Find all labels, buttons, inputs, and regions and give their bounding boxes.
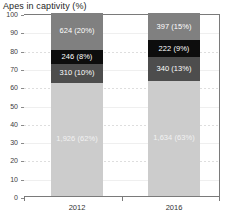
x-tick-mark	[24, 197, 25, 201]
bar-segment-segment-2-2016[interactable]: 340 (13%)	[148, 57, 200, 81]
plot-area: 1,926 (62%)310 (10%)246 (8%)624 (20%)1,6…	[24, 14, 220, 197]
bar-segment-label: 222 (9%)	[159, 45, 190, 53]
y-tick-mark	[21, 180, 24, 181]
bar-segment-segment-2-2012[interactable]: 310 (10%)	[51, 64, 103, 82]
bar-segment-label: 624 (20%)	[59, 27, 94, 35]
bar-segment-label: 397 (15%)	[156, 23, 191, 31]
y-tick-label: 10	[0, 175, 18, 182]
bar-segment-label: 310 (10%)	[59, 69, 94, 77]
y-tick-mark	[21, 33, 24, 34]
x-axis: 20122016	[24, 197, 220, 215]
bar-segment-segment-3-2012[interactable]: 246 (8%)	[51, 50, 103, 65]
bar-segment-label: 1,634 (63%)	[153, 134, 194, 142]
chart-container: Apes in captivity (%) 1,926 (62%)310 (10…	[0, 0, 227, 218]
y-tick-label: 50	[0, 102, 18, 109]
y-tick-label: 70	[0, 65, 18, 72]
y-tick-label: 100	[0, 11, 18, 18]
bar-segment-segment-1-2012[interactable]: 1,926 (62%)	[51, 83, 103, 196]
y-tick-mark	[21, 15, 24, 16]
bar-segment-label: 1,926 (62%)	[56, 135, 97, 143]
y-tick-mark	[21, 125, 24, 126]
y-tick-label: 30	[0, 139, 18, 146]
bar-segment-label: 246 (8%)	[62, 53, 93, 61]
x-tick-label-2012: 2012	[69, 203, 86, 212]
y-tick-mark	[21, 88, 24, 89]
bar-segment-label: 340 (13%)	[156, 65, 191, 73]
y-tick-label: 0	[0, 194, 18, 201]
bar-segment-segment-1-2016[interactable]: 1,634 (63%)	[148, 81, 200, 196]
x-tick-label-2016: 2016	[166, 203, 183, 212]
bar-segment-segment-3-2016[interactable]: 222 (9%)	[148, 40, 200, 56]
y-tick-label: 80	[0, 47, 18, 54]
plot-inner: 1,926 (62%)310 (10%)246 (8%)624 (20%)1,6…	[24, 15, 219, 196]
bar-segment-segment-4-2016[interactable]: 397 (15%)	[148, 13, 200, 40]
y-tick-mark	[21, 52, 24, 53]
bar-2016[interactable]: 1,634 (63%)340 (13%)222 (9%)397 (15%)	[148, 13, 200, 196]
x-tick-mark	[219, 197, 220, 201]
y-tick-label: 20	[0, 157, 18, 164]
y-tick-mark	[21, 161, 24, 162]
y-tick-label: 90	[0, 29, 18, 36]
bar-segment-segment-4-2012[interactable]: 624 (20%)	[51, 13, 103, 50]
y-tick-label: 40	[0, 120, 18, 127]
y-tick-mark	[21, 107, 24, 108]
bar-2012[interactable]: 1,926 (62%)310 (10%)246 (8%)624 (20%)	[51, 13, 103, 196]
y-tick-mark	[21, 70, 24, 71]
y-tick-label: 60	[0, 84, 18, 91]
x-tick-mark	[122, 197, 123, 201]
y-tick-mark	[21, 143, 24, 144]
